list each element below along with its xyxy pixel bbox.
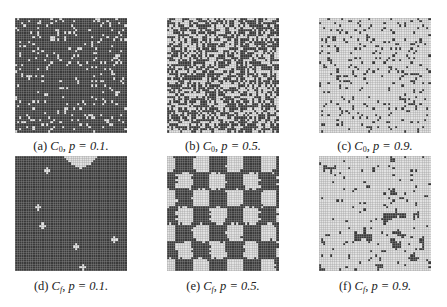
cell-grid-f (319, 156, 431, 271)
caption-config-sub: 0 (363, 145, 367, 154)
caption-config: C (50, 139, 58, 153)
caption-p: p = 0.5. (220, 279, 260, 293)
caption-p: p = 0.1. (68, 279, 108, 293)
caption-config: C (52, 279, 60, 293)
cell-grid-d (15, 156, 127, 271)
panel-a-grid (15, 18, 127, 133)
cell-grid-c (319, 18, 431, 133)
caption-p: p = 0.9. (373, 139, 413, 153)
caption-p: p = 0.5. (221, 139, 261, 153)
caption-e: (e) Cf, p = 0.5. (148, 279, 298, 297)
caption-config: C (203, 279, 211, 293)
caption-config-sub: f (60, 285, 62, 294)
caption-label: (f) (339, 279, 352, 293)
panel-f-grid (319, 156, 431, 271)
caption-config-sub: 0 (59, 145, 63, 154)
caption-config: C (203, 139, 211, 153)
panel-c-grid (319, 18, 431, 133)
panel-d-grid (15, 156, 127, 271)
cell-grid-b (167, 18, 279, 133)
cell-grid-e (167, 156, 279, 271)
caption-c: (c) C0, p = 0.9. (300, 139, 447, 157)
caption-b: (b) C0, p = 0.5. (148, 139, 298, 157)
caption-f: (f) Cf, p = 0.9. (300, 279, 447, 297)
caption-p: p = 0.9. (371, 279, 411, 293)
caption-label: (b) (185, 139, 200, 153)
caption-config-sub: f (363, 285, 365, 294)
caption-config-sub: 0 (211, 145, 215, 154)
caption-config-sub: f (212, 285, 214, 294)
cell-grid-a (15, 18, 127, 133)
caption-label: (c) (337, 139, 351, 153)
caption-config: C (354, 139, 362, 153)
caption-d: (d) Cf, p = 0.1. (0, 279, 146, 297)
caption-label: (d) (34, 279, 49, 293)
panel-e-grid (167, 156, 279, 271)
caption-label: (a) (33, 139, 47, 153)
panel-b-grid (167, 18, 279, 133)
caption-label: (e) (186, 279, 200, 293)
caption-p: p = 0.1. (69, 139, 109, 153)
caption-a: (a) C0, p = 0.1. (0, 139, 146, 157)
caption-config: C (355, 279, 363, 293)
